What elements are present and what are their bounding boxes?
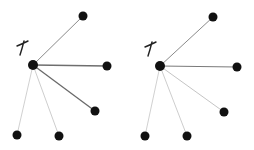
star-graph-right bbox=[141, 13, 242, 141]
edge-right-2 bbox=[160, 66, 224, 112]
leaf-node-left-0 bbox=[79, 12, 88, 21]
star-graph-left bbox=[13, 12, 112, 141]
edge-left-1 bbox=[33, 65, 107, 66]
x-label-left bbox=[17, 41, 28, 55]
leaf-node-right-2 bbox=[220, 108, 229, 117]
edge-left-2 bbox=[33, 65, 95, 111]
edge-right-0 bbox=[160, 17, 213, 66]
center-node-left bbox=[28, 60, 38, 70]
leaf-node-left-3 bbox=[13, 131, 22, 140]
leaf-node-right-4 bbox=[183, 132, 192, 141]
leaf-node-right-3 bbox=[141, 132, 150, 141]
leaf-node-left-2 bbox=[91, 107, 100, 116]
edge-right-4 bbox=[160, 66, 187, 136]
x-label-right bbox=[145, 42, 156, 56]
leaf-node-left-4 bbox=[55, 132, 64, 141]
edge-left-4 bbox=[33, 65, 59, 136]
edge-left-3 bbox=[17, 65, 33, 135]
leaf-node-right-0 bbox=[209, 13, 218, 22]
leaf-node-right-1 bbox=[233, 63, 242, 72]
leaf-node-left-1 bbox=[103, 62, 112, 71]
edge-left-0 bbox=[33, 16, 83, 65]
diagram-canvas bbox=[0, 0, 254, 150]
edge-right-1 bbox=[160, 66, 237, 67]
edge-right-3 bbox=[145, 66, 160, 136]
center-node-right bbox=[155, 61, 165, 71]
